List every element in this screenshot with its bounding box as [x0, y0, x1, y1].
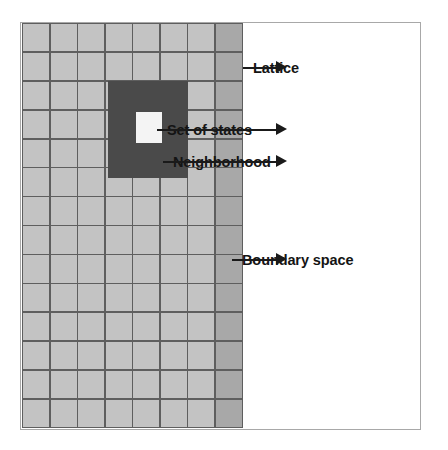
- lattice-cell: [216, 371, 242, 399]
- arrow-head: [276, 123, 287, 135]
- lattice-cell: [78, 140, 104, 168]
- lattice-cell: [161, 197, 187, 225]
- lattice-cell: [216, 342, 242, 369]
- lattice-cell: [161, 371, 187, 399]
- lattice-cell: [51, 24, 77, 51]
- lattice-cell: [161, 226, 187, 254]
- lattice-cell: [78, 371, 104, 399]
- lattice-cell: [23, 342, 49, 369]
- lattice-cell: [23, 371, 49, 399]
- lattice-cell: [106, 400, 132, 427]
- lattice-cell: [23, 53, 49, 81]
- lattice-cell: [161, 342, 187, 369]
- annotation-neighborhood: Neighborhood: [163, 152, 271, 172]
- lattice-cell: [106, 24, 132, 51]
- lattice-cell: [78, 82, 104, 109]
- lattice-cell: [133, 226, 159, 254]
- lattice-cell: [51, 168, 77, 195]
- lattice-cell: [133, 284, 159, 312]
- lattice-cell: [216, 168, 242, 195]
- lattice-cell: [51, 53, 77, 81]
- lattice-cell: [23, 24, 49, 51]
- lattice-cell: [216, 53, 242, 81]
- lattice-cell: [188, 24, 214, 51]
- lattice-cell: [133, 313, 159, 341]
- lattice-cell: [133, 255, 159, 282]
- lattice-cell: [188, 197, 214, 225]
- lattice-cell: [133, 371, 159, 399]
- lattice-cell: [188, 82, 214, 109]
- lattice-cell: [23, 313, 49, 341]
- lattice-cell: [216, 284, 242, 312]
- lattice-cell: [106, 53, 132, 81]
- lattice-cell: [188, 313, 214, 341]
- lattice-cell: [51, 371, 77, 399]
- lattice-cell: [78, 284, 104, 312]
- lattice-cell: [23, 255, 49, 282]
- lattice-cell: [188, 400, 214, 427]
- lattice-cell: [51, 313, 77, 341]
- lattice-cell: [51, 111, 77, 139]
- lattice-cell: [23, 197, 49, 225]
- lattice-cell: [161, 400, 187, 427]
- lattice-cell: [133, 400, 159, 427]
- arrow-line: [163, 161, 276, 163]
- lattice-cell: [161, 284, 187, 312]
- arrow-line: [243, 67, 276, 69]
- lattice-cell: [78, 53, 104, 81]
- neighborhood-cell: [162, 81, 188, 112]
- lattice-cell: [161, 255, 187, 282]
- lattice-cell: [106, 371, 132, 399]
- lattice-cell: [23, 82, 49, 109]
- lattice-cell: [23, 168, 49, 195]
- lattice-cell: [106, 255, 132, 282]
- arrow-line: [157, 129, 276, 131]
- lattice-cell: [188, 255, 214, 282]
- annotation-set-of-states: Set of states: [157, 120, 252, 140]
- lattice-cell: [188, 342, 214, 369]
- lattice-cell: [133, 342, 159, 369]
- lattice-cell: [78, 197, 104, 225]
- arrow-head: [276, 61, 287, 73]
- lattice-cell: [133, 197, 159, 225]
- lattice-cell: [106, 284, 132, 312]
- lattice-cell: [216, 197, 242, 225]
- neighborhood-cell: [108, 114, 134, 145]
- neighborhood-cell: [135, 81, 161, 112]
- lattice-cell: [51, 140, 77, 168]
- lattice-cell: [23, 111, 49, 139]
- lattice-cell: [106, 197, 132, 225]
- lattice-cell: [51, 342, 77, 369]
- lattice-cell: [161, 24, 187, 51]
- arrow-head: [276, 155, 287, 167]
- lattice-cell: [106, 226, 132, 254]
- annotation-boundary-space: Boundary space: [232, 250, 353, 270]
- arrow-line: [232, 259, 276, 261]
- lattice-cell: [216, 400, 242, 427]
- lattice-cell: [51, 226, 77, 254]
- lattice-cell: [23, 226, 49, 254]
- lattice-cell: [78, 313, 104, 341]
- lattice-cell: [51, 255, 77, 282]
- neighborhood-cell: [108, 147, 134, 178]
- lattice-cell: [188, 371, 214, 399]
- neighborhood-cell: [108, 81, 134, 112]
- lattice-cell: [51, 82, 77, 109]
- lattice-cell: [78, 226, 104, 254]
- lattice-cell: [106, 313, 132, 341]
- lattice-cell: [78, 111, 104, 139]
- lattice-cell: [51, 400, 77, 427]
- lattice-cell: [23, 284, 49, 312]
- lattice-cell: [188, 53, 214, 81]
- lattice-cell: [188, 284, 214, 312]
- lattice-cell: [78, 24, 104, 51]
- annotation-lattice: Lattice: [243, 58, 299, 78]
- lattice-cell: [78, 168, 104, 195]
- lattice-cell: [216, 24, 242, 51]
- lattice-cell: [133, 53, 159, 81]
- lattice-cell: [78, 400, 104, 427]
- lattice-cell: [106, 342, 132, 369]
- lattice-cell: [23, 140, 49, 168]
- lattice-cell: [23, 400, 49, 427]
- lattice-cell: [51, 284, 77, 312]
